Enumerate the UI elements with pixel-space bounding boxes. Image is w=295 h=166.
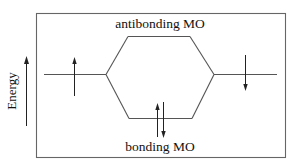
mo-diagram: Energy antibonding MO bonding MO [0,0,295,166]
energy-axis: Energy [4,56,29,126]
energy-axis-arrow-icon [24,56,29,64]
antibonding-mo-label: antibonding MO [115,16,205,31]
bonding-mo-label: bonding MO [125,139,195,154]
energy-axis-label: Energy [4,72,19,110]
diagram-frame [37,14,286,158]
